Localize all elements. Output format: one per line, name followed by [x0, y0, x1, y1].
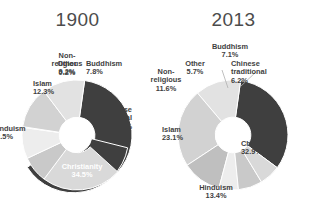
donut-chart-2013 — [156, 0, 311, 215]
label-christianity-2013: Christianity 32.9% — [241, 140, 282, 157]
label-hinduism-1900: Hinduism 12.5% — [0, 125, 26, 142]
chart-panel-1900: 1900 Non- r — [0, 0, 155, 215]
donut-slices-2013 — [178, 80, 288, 190]
label-chinese-traditional-1900: Chinese traditional 23.5% — [80, 106, 132, 131]
label-christianity-1900: Christianity 34.5% — [52, 163, 112, 180]
label-non-religious-2013: Non- religious 11.6% — [148, 68, 184, 93]
label-chinese-traditional-2013: Chinese traditional 6.2% — [231, 60, 267, 85]
label-hinduism-2013: Hinduism 13.4% — [190, 184, 242, 201]
label-other-1900: Other 9.2% — [53, 60, 81, 77]
label-islam-2013: Islam 23.1% — [162, 126, 183, 143]
label-buddhism-1900: Buddhism 7.8% — [86, 60, 122, 77]
chart-panel-2013: 2013 — [156, 0, 311, 215]
label-other-2013: Other 5.7% — [181, 60, 209, 77]
label-islam-1900: Islam 12.3% — [33, 80, 54, 97]
label-buddhism-2013: Buddhism 7.1% — [208, 43, 252, 60]
religions-comparison-chart: 1900 Non- r — [0, 0, 311, 215]
